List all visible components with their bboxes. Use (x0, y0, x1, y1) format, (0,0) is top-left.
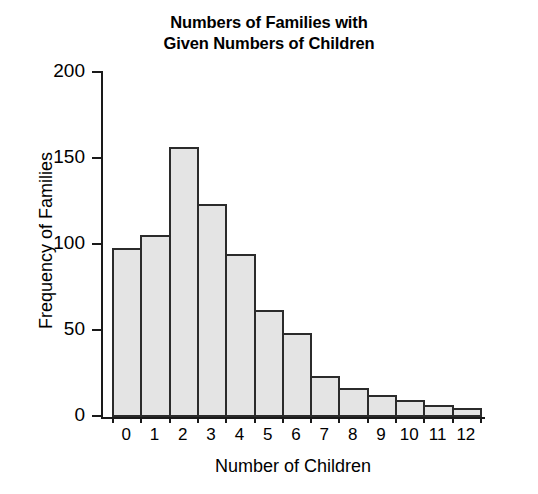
y-tick-label-200: 200 (53, 60, 85, 82)
x-axis-line (101, 417, 485, 419)
x-tick-8 (338, 417, 340, 423)
x-tick-label-0: 0 (121, 425, 130, 445)
y-tick-label-50: 50 (64, 318, 85, 340)
x-tick-5 (254, 417, 256, 423)
x-tick-label-5: 5 (263, 425, 272, 445)
y-tick-0: 0 (92, 415, 101, 417)
bar-4 (225, 254, 255, 417)
bar-6 (282, 333, 312, 417)
x-tick-label-3: 3 (206, 425, 215, 445)
x-tick-label-7: 7 (320, 425, 329, 445)
y-tick-label-0: 0 (74, 404, 85, 426)
x-tick-7 (310, 417, 312, 423)
x-tick-3 (197, 417, 199, 423)
x-tick-10 (395, 417, 397, 423)
x-tick-2 (169, 417, 171, 423)
x-tick-label-4: 4 (235, 425, 244, 445)
bar-2 (169, 147, 199, 417)
x-tick-label-1: 1 (150, 425, 159, 445)
bar-9 (367, 395, 397, 417)
x-tick-4 (225, 417, 227, 423)
x-tick-0 (112, 417, 114, 423)
x-tick-6 (282, 417, 284, 423)
histogram-figure: Numbers of Families with Given Numbers o… (0, 0, 538, 494)
x-tick-label-6: 6 (291, 425, 300, 445)
y-tick-150: 150 (92, 157, 101, 159)
x-axis-title: Number of Children (101, 456, 485, 477)
chart-title: Numbers of Families with Given Numbers o… (0, 12, 538, 53)
x-tick-12 (452, 417, 454, 423)
bar-12 (452, 408, 482, 417)
bar-0 (112, 248, 142, 417)
x-tick-end (480, 417, 482, 423)
y-axis-title: Frequency of Families (36, 116, 57, 366)
plot-area: 0 50 100 150 200 0123456789101112 (101, 73, 485, 417)
bar-8 (338, 388, 368, 417)
x-tick-11 (423, 417, 425, 423)
y-tick-100: 100 (92, 243, 101, 245)
y-tick-label-100: 100 (53, 232, 85, 254)
y-tick-label-150: 150 (53, 146, 85, 168)
bar-10 (395, 400, 425, 417)
x-tick-label-10: 10 (400, 425, 419, 445)
bar-11 (423, 405, 453, 417)
x-tick-9 (367, 417, 369, 423)
x-tick-label-11: 11 (429, 425, 447, 445)
bar-7 (310, 376, 340, 417)
x-tick-label-8: 8 (348, 425, 357, 445)
bar-3 (197, 204, 227, 417)
x-tick-label-2: 2 (178, 425, 187, 445)
y-tick-50: 50 (92, 329, 101, 331)
y-tick-200: 200 (92, 71, 101, 73)
bar-5 (254, 310, 284, 417)
x-tick-label-12: 12 (456, 425, 475, 445)
chart-title-line-2: Given Numbers of Children (0, 33, 538, 54)
chart-title-line-1: Numbers of Families with (0, 12, 538, 33)
x-tick-label-9: 9 (376, 425, 385, 445)
x-tick-1 (140, 417, 142, 423)
bar-1 (140, 235, 170, 417)
